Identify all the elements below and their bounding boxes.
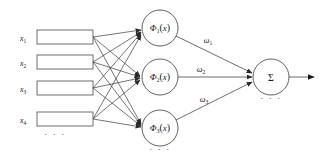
output-layer-ellipsis: · · · xyxy=(260,93,282,103)
neural-network-diagram: x1 x2 x3 x4 · · · Φ1(x) Φ2(x) xyxy=(0,0,323,161)
hidden-node-label-phi3: Φ3(x) xyxy=(150,122,170,134)
input-box-x3[interactable] xyxy=(37,81,93,95)
weight-label-w1: ω1 xyxy=(204,36,213,46)
input-label-x1: x1 xyxy=(19,34,27,44)
edge-x4-phi2 xyxy=(93,80,140,119)
hidden-node-label-phi1: Φ1(x) xyxy=(150,22,170,34)
output-node-label: Σ xyxy=(268,72,274,83)
edge-x1-phi3 xyxy=(93,37,141,124)
edges-hidden-to-output xyxy=(176,36,252,120)
input-label-x3: x3 xyxy=(19,85,27,95)
edge-x2-phi2 xyxy=(93,62,140,77)
hidden-layer-ellipsis: · · · xyxy=(149,144,171,154)
input-box-x1[interactable] xyxy=(37,30,93,44)
edge-x4-phi1 xyxy=(93,35,141,119)
edges-input-to-hidden xyxy=(93,30,141,127)
hidden-node-label-phi2: Φ2(x) xyxy=(150,71,170,83)
edge-x1-phi1 xyxy=(93,30,141,37)
weight-label-w3: ω3 xyxy=(200,95,209,105)
network-canvas: x1 x2 x3 x4 · · · Φ1(x) Φ2(x) xyxy=(0,0,323,161)
output-layer: Σ · · · xyxy=(253,59,289,103)
input-label-x4: x4 xyxy=(19,116,27,126)
edge-x1-phi2 xyxy=(93,37,140,76)
weight-label-w2: ω2 xyxy=(197,65,206,75)
input-layer-ellipsis: · · · xyxy=(44,129,66,139)
hidden-layer: Φ1(x) Φ2(x) Φ3(x) · · · xyxy=(142,10,178,154)
edge-phi1-sum xyxy=(176,36,252,73)
edge-phi3-sum xyxy=(176,82,252,120)
weight-labels: ω1 ω2 ω3 xyxy=(197,36,213,105)
input-box-x2[interactable] xyxy=(37,55,93,69)
input-label-x2: x2 xyxy=(19,59,27,69)
input-box-x4[interactable] xyxy=(37,112,93,126)
edge-x3-phi1 xyxy=(93,33,141,88)
input-layer: x1 x2 x3 x4 · · · xyxy=(19,30,93,139)
